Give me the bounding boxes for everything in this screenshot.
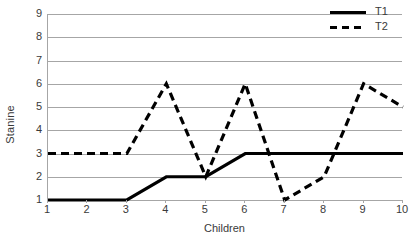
legend-entry-t2[interactable]: T2 — [328, 19, 402, 34]
y-axis-title: Stanine — [0, 0, 20, 249]
legend-label-t2: T2 — [375, 21, 388, 32]
x-axis-tick-label: 7 — [269, 203, 299, 216]
x-axis-tick-labels: 12345678910 — [47, 203, 402, 219]
x-axis-tick-label: 1 — [32, 203, 62, 216]
y-axis-tick-label: 5 — [22, 101, 42, 112]
y-axis-tick-label: 6 — [22, 78, 42, 89]
dashed-line-swatch-icon — [328, 22, 368, 32]
solid-line-swatch-icon — [328, 7, 368, 17]
y-axis-tick-label: 7 — [22, 55, 42, 66]
series-line-t2 — [48, 84, 403, 200]
x-axis-tick-label: 2 — [71, 203, 101, 216]
x-axis-tick-label: 10 — [387, 203, 413, 216]
y-axis-tick-label: 8 — [22, 31, 42, 42]
series-line-t1 — [48, 154, 403, 201]
plot-area — [47, 14, 402, 200]
y-axis-tick-label: 9 — [22, 8, 42, 19]
x-axis-tick-label: 3 — [111, 203, 141, 216]
chart-legend: T1 T2 — [328, 4, 402, 34]
x-axis-tick-label: 8 — [308, 203, 338, 216]
legend-label-t1: T1 — [375, 6, 388, 17]
y-axis-tick-label: 3 — [22, 148, 42, 159]
y-axis-tick-labels: 123456789 — [22, 14, 42, 200]
x-axis-tick-label: 6 — [229, 203, 259, 216]
x-axis-tick-label: 9 — [348, 203, 378, 216]
x-axis-tick-label: 4 — [150, 203, 180, 216]
x-axis-tick-label: 5 — [190, 203, 220, 216]
y-axis-tick-label: 2 — [22, 171, 42, 182]
x-axis-title: Children — [47, 222, 402, 234]
series-container — [48, 14, 403, 200]
legend-entry-t1[interactable]: T1 — [328, 4, 402, 19]
y-axis-tick-label: 4 — [22, 124, 42, 135]
